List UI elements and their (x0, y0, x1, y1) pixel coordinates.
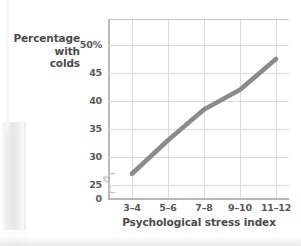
y-tick-label-40: 40 (68, 95, 102, 106)
x-axis-spine (108, 198, 289, 200)
line-chart-figure: Percentage with colds 50% 45 40 35 30 25… (0, 0, 301, 246)
y-tick-label-35: 35 (68, 123, 102, 134)
y-tick-label-45: 45 (68, 67, 102, 78)
y-tick-label-50: 50% (68, 39, 102, 50)
x-tick-label-5: 11–12 (254, 202, 298, 213)
y-tick-label-25: 25 (68, 179, 102, 190)
y-tick-label-30: 30 (68, 151, 102, 162)
data-series-plot (108, 20, 288, 198)
y-tick-label-0: 0 (68, 193, 102, 204)
data-line-percentage-with-colds (132, 59, 276, 174)
x-axis-title: Psychological stress index (100, 216, 298, 228)
y-axis-title: Percentage with colds (8, 32, 80, 70)
